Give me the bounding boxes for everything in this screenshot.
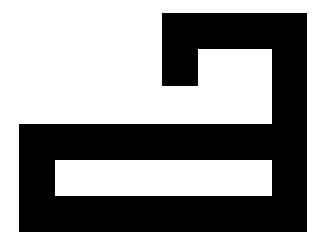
loop-bottom-bar [19,196,307,232]
top-left-stub [162,13,198,86]
loop-top-bar [19,124,307,160]
